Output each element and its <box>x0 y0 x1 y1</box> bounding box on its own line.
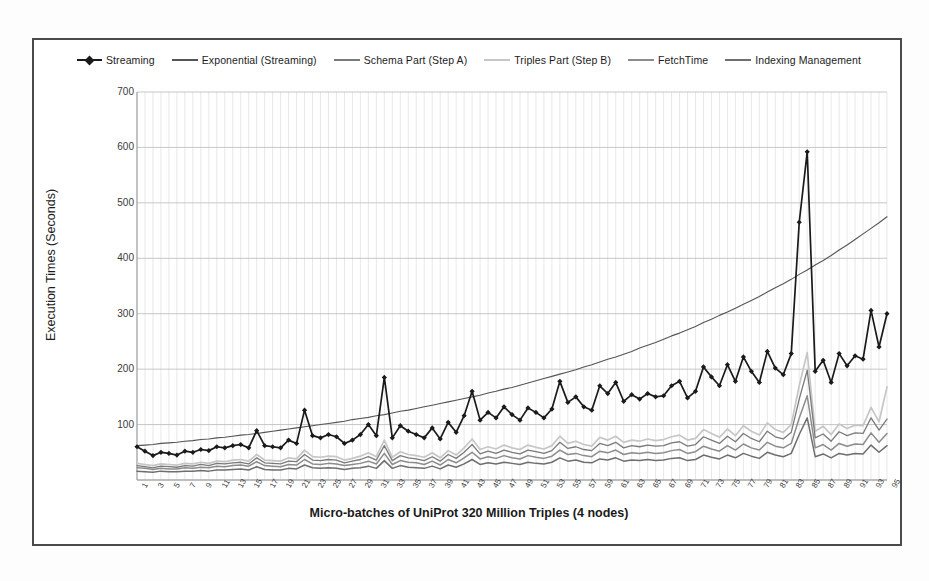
y-tick-label: 400 <box>100 252 134 263</box>
y-tick-label: 500 <box>100 197 134 208</box>
vertical-gridlines <box>137 92 887 480</box>
y-tick-label: 300 <box>100 308 134 319</box>
y-tick-label: 600 <box>100 141 134 152</box>
x-axis-title: Micro-batches of UniProt 320 Million Tri… <box>34 506 904 520</box>
y-axis-ticks: 100200300400500600700 <box>100 40 134 548</box>
plot-area-wrapper: 100200300400500600700 135791113151719212… <box>34 40 904 548</box>
plot-svg <box>34 40 904 548</box>
y-tick-label: 200 <box>100 363 134 374</box>
y-tick-label: 700 <box>100 86 134 97</box>
y-tick-label: 100 <box>100 419 134 430</box>
y-axis-title: Execution Times (Seconds) <box>44 85 58 445</box>
chart-frame: StreamingExponential (Streaming)Schema P… <box>32 38 902 546</box>
chart-screenshot: StreamingExponential (Streaming)Schema P… <box>0 0 929 581</box>
